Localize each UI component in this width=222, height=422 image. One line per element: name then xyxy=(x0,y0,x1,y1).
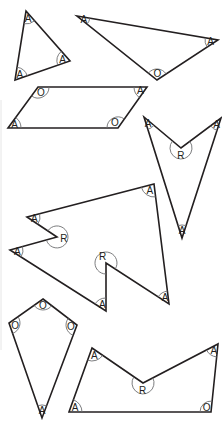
parallelogram-outline xyxy=(8,87,147,128)
angle-label: A xyxy=(80,14,87,25)
obtuse-triangle-outline xyxy=(77,16,218,80)
acute-triangle: AAA xyxy=(15,11,70,80)
angle-label: A xyxy=(207,36,214,47)
angle-label: A xyxy=(31,213,38,224)
angle-label: A xyxy=(91,350,98,361)
angle-arc xyxy=(87,18,90,24)
angle-label: A xyxy=(99,299,106,310)
angle-label: R xyxy=(139,385,146,396)
angle-label: A xyxy=(213,119,220,130)
angle-label: A xyxy=(25,13,32,24)
angle-label: R xyxy=(177,150,184,161)
concave-pentagon: ARAOA xyxy=(69,344,218,413)
angle-label: A xyxy=(179,225,186,236)
arrowhead-outline xyxy=(144,117,221,238)
angle-label: A xyxy=(210,345,217,356)
notched-hexagon-outline xyxy=(10,184,169,311)
angle-label: A xyxy=(72,402,79,413)
parallelogram: OAOA xyxy=(8,85,147,130)
kite-outline xyxy=(9,299,77,418)
angle-diagram: AAAAAOOAOAARAAAAARAAROOAOARAOA xyxy=(0,0,222,422)
angle-arc xyxy=(38,214,40,225)
angle-label: A xyxy=(162,292,169,303)
obtuse-triangle: AAO xyxy=(77,14,218,80)
angle-label: A xyxy=(14,246,21,257)
angle-label: A xyxy=(39,405,46,416)
angle-arc xyxy=(21,247,23,258)
angle-label: O xyxy=(67,321,75,332)
notched-hexagon: AAARAAR xyxy=(10,184,169,311)
angle-label: O xyxy=(203,402,211,413)
angle-label: A xyxy=(145,118,152,129)
angle-label: A xyxy=(137,85,144,96)
angle-label: A xyxy=(16,69,23,80)
angle-label: A xyxy=(11,119,18,130)
angle-label: A xyxy=(146,185,153,196)
angle-label: O xyxy=(11,320,19,331)
angle-label: A xyxy=(59,54,66,65)
angle-label: O xyxy=(111,117,119,128)
angle-label: O xyxy=(153,68,161,79)
diagram-canvas: AAAAAOOAOAARAAAAARAAROOAOARAOA xyxy=(0,0,222,422)
angle-label: R xyxy=(60,233,67,244)
angle-label: O xyxy=(39,300,47,311)
angle-label: O xyxy=(37,87,45,98)
angle-label: R xyxy=(99,251,106,262)
kite: OOAO xyxy=(9,299,77,418)
arrowhead: ARAA xyxy=(144,117,221,238)
